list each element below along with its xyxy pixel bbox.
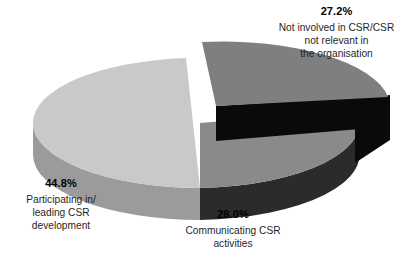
slice-desc-not-involved: Not involved in CSR/CSR not relevant in …	[258, 21, 415, 60]
slice-percent-communicating: 28.0%	[163, 207, 303, 221]
slice-label-communicating: 28.0% Communicating CSR activities	[163, 207, 303, 250]
slice-desc-line: Not involved in CSR/CSR	[258, 21, 415, 34]
slice-desc-line: not relevant in	[258, 34, 415, 47]
slice-not-involved-side-right	[355, 95, 390, 163]
pie-chart-figure: 27.2% Not involved in CSR/CSR not releva…	[0, 0, 417, 260]
slice-desc-line: Participating in/	[2, 193, 120, 206]
slice-label-participating: 44.8% Participating in/ leading CSR deve…	[2, 176, 120, 232]
slice-desc-participating: Participating in/ leading CSR developmen…	[2, 193, 120, 232]
slice-percent-not-involved: 27.2%	[258, 4, 415, 18]
slice-desc-line: activities	[163, 237, 303, 250]
slice-label-not-involved: 27.2% Not involved in CSR/CSR not releva…	[258, 4, 415, 60]
slice-desc-line: leading CSR	[2, 206, 120, 219]
slice-desc-line: Communicating CSR	[163, 224, 303, 237]
slice-percent-participating: 44.8%	[2, 176, 120, 190]
slice-desc-line: development	[2, 219, 120, 232]
slice-desc-line: the organisation	[258, 47, 415, 60]
slice-desc-communicating: Communicating CSR activities	[163, 224, 303, 250]
